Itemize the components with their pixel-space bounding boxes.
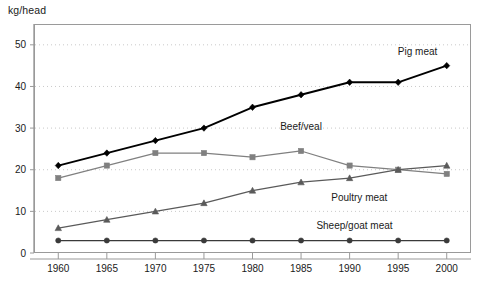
data-point-square bbox=[153, 150, 158, 155]
series-line bbox=[58, 66, 446, 166]
y-axis-group: 01020304050 bbox=[15, 24, 34, 259]
x-tick-label: 1985 bbox=[290, 263, 313, 274]
data-point-square bbox=[201, 150, 206, 155]
data-point-square bbox=[444, 171, 449, 176]
x-tick-label: 1980 bbox=[241, 263, 264, 274]
data-point-circle bbox=[396, 238, 401, 243]
x-axis-group: 196019651970197519801985199019952000 bbox=[30, 253, 471, 274]
meat-consumption-chart: kg/head 01020304050 19601965197019751980… bbox=[0, 0, 478, 286]
data-point-diamond bbox=[395, 79, 401, 85]
y-tick-label: 50 bbox=[15, 39, 27, 50]
x-tick-label: 2000 bbox=[436, 263, 459, 274]
series-label-poultry-meat: Poultry meat bbox=[331, 192, 387, 203]
gridlines-group bbox=[35, 45, 470, 212]
data-point-diamond bbox=[152, 137, 158, 143]
data-point-circle bbox=[104, 238, 109, 243]
x-tick-label: 1975 bbox=[193, 263, 216, 274]
series-labels-group: Pig meatBeef/vealPoultry meatSheep/goat … bbox=[280, 46, 437, 231]
data-point-square bbox=[104, 163, 109, 168]
series-label-pig-meat: Pig meat bbox=[398, 46, 438, 57]
series-sheep-goat-meat bbox=[56, 238, 450, 243]
data-point-square bbox=[347, 163, 352, 168]
y-tick-label: 30 bbox=[15, 123, 27, 134]
x-tick-label: 1990 bbox=[338, 263, 361, 274]
y-tick-label: 10 bbox=[15, 206, 27, 217]
series-label-beef-veal: Beef/veal bbox=[280, 121, 322, 132]
series-label-sheep-goat-meat: Sheep/goat meat bbox=[316, 220, 392, 231]
data-point-circle bbox=[153, 238, 158, 243]
chart-canvas: 01020304050 1960196519701975198019851990… bbox=[0, 0, 478, 286]
data-point-diamond bbox=[55, 162, 61, 168]
series-beef-veal bbox=[56, 148, 450, 180]
data-point-circle bbox=[347, 238, 352, 243]
y-tick-label: 20 bbox=[15, 164, 27, 175]
series-group bbox=[55, 62, 450, 243]
data-point-diamond bbox=[250, 104, 256, 110]
series-line bbox=[58, 166, 446, 228]
x-tick-label: 1970 bbox=[144, 263, 167, 274]
y-tick-label: 40 bbox=[15, 81, 27, 92]
data-point-circle bbox=[444, 238, 449, 243]
data-point-square bbox=[250, 155, 255, 160]
series-pig-meat bbox=[55, 62, 449, 168]
x-tick-label: 1960 bbox=[47, 263, 70, 274]
data-point-diamond bbox=[298, 92, 304, 98]
data-point-diamond bbox=[104, 150, 110, 156]
data-point-circle bbox=[56, 238, 61, 243]
data-point-circle bbox=[298, 238, 303, 243]
data-point-circle bbox=[201, 238, 206, 243]
data-point-diamond bbox=[444, 62, 450, 68]
x-tick-label: 1995 bbox=[387, 263, 410, 274]
data-point-square bbox=[298, 148, 303, 153]
data-point-diamond bbox=[347, 79, 353, 85]
y-tick-label: 0 bbox=[20, 248, 26, 259]
data-point-diamond bbox=[201, 125, 207, 131]
data-point-square bbox=[56, 175, 61, 180]
x-tick-label: 1965 bbox=[96, 263, 119, 274]
data-point-circle bbox=[250, 238, 255, 243]
